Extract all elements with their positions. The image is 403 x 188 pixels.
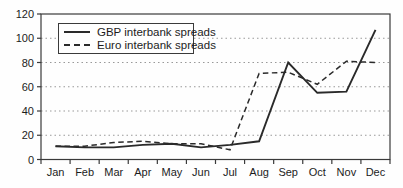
gbp-solid-line-icon <box>64 31 90 33</box>
y-tick-label: 120 <box>16 8 34 20</box>
x-axis: JanFebMarAprMayJunJulAugSepOctNovDec <box>41 160 390 178</box>
x-tick-label: Jan <box>47 166 65 178</box>
legend-item-gbp: GBP interbank spreads <box>64 26 188 38</box>
x-tick-label: Mar <box>104 166 123 178</box>
legend-item-euro: Euro interbank spreads <box>64 39 188 51</box>
x-tick-label: Dec <box>366 166 386 178</box>
y-tick-label: 0 <box>28 154 34 166</box>
x-tick-label: Nov <box>337 166 357 178</box>
euro-spreads-line <box>56 61 376 150</box>
y-tick-label: 60 <box>22 81 34 93</box>
x-tick-label: Oct <box>309 166 326 178</box>
euro-dashed-line-icon <box>64 44 90 46</box>
x-tick-label: Apr <box>134 166 151 178</box>
y-tick-label: 100 <box>16 32 34 44</box>
legend-label-euro: Euro interbank spreads <box>97 39 216 51</box>
legend-label-gbp: GBP interbank spreads <box>97 26 216 38</box>
y-axis: 020406080100120 <box>16 8 41 166</box>
y-tick-label: 20 <box>22 129 34 141</box>
interbank-spreads-chart: 020406080100120 JanFebMarAprMayJunJulAug… <box>0 0 403 188</box>
y-tick-label: 40 <box>22 105 34 117</box>
x-tick-label: Sep <box>278 166 298 178</box>
y-tick-label: 80 <box>22 57 34 69</box>
legend: GBP interbank spreads Euro interbank spr… <box>58 23 194 54</box>
x-tick-label: Jun <box>192 166 210 178</box>
x-tick-label: May <box>161 166 182 178</box>
x-tick-label: Feb <box>75 166 94 178</box>
x-tick-label: Jul <box>223 166 237 178</box>
x-tick-label: Aug <box>249 166 269 178</box>
